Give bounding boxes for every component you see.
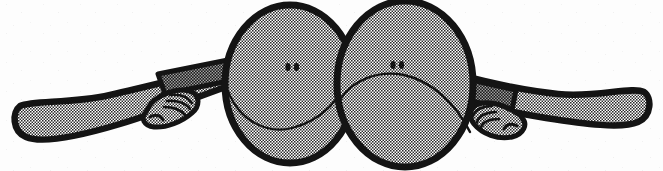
right-figure (337, 1, 473, 167)
right-figure-eye-right (399, 61, 404, 69)
illustration-canvas: Two oval cartoon characters with long ou… (0, 0, 663, 171)
left-figure-eye-left (285, 63, 290, 71)
right-figure-eye-left (390, 61, 395, 69)
cartoon-figures-drawing (0, 0, 663, 171)
left-figure-eye-right (294, 63, 299, 71)
